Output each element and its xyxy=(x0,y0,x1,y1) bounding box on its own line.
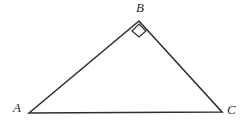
geometry-figure: A B C xyxy=(0,0,246,127)
vertex-label-a: A xyxy=(13,101,21,114)
triangle-outline xyxy=(29,21,222,113)
triangle-svg xyxy=(0,0,246,127)
vertex-label-c: C xyxy=(227,103,236,116)
vertex-label-b: B xyxy=(136,1,144,14)
